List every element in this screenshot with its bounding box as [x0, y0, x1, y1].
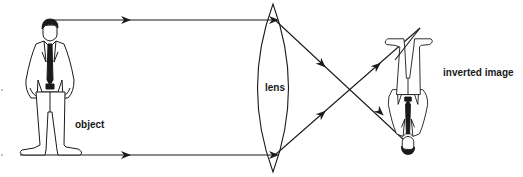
image-figure [385, 39, 432, 155]
ray-top [52, 20, 405, 141]
lens-diagram [0, 0, 523, 177]
object-figure [20, 19, 81, 155]
arrow-icon [121, 16, 386, 159]
inverted-image-label: inverted image [443, 68, 514, 78]
object-label: object [75, 120, 104, 130]
lens-label: lens [265, 83, 285, 93]
ray-bottom [20, 28, 420, 155]
